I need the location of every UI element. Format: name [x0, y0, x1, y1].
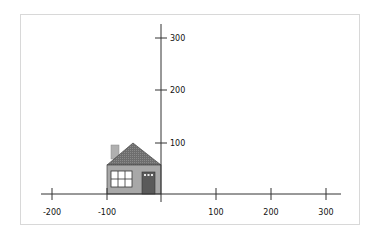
y-label: 300 [170, 34, 185, 43]
x-label: 300 [318, 208, 333, 217]
x-label: -100 [98, 208, 116, 217]
window [111, 171, 132, 187]
x-label: 200 [263, 208, 278, 217]
y-label: 200 [170, 86, 185, 95]
x-label: 100 [208, 208, 223, 217]
y-label: 100 [170, 139, 185, 148]
house [107, 143, 161, 194]
door [142, 172, 155, 194]
coordinate-plane: -200 -100 100 200 300 300 200 100 [0, 0, 379, 235]
x-label: -200 [43, 208, 61, 217]
